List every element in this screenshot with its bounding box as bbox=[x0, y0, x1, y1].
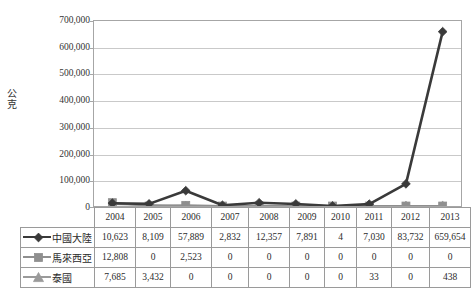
legend-label: 馬來西亞 bbox=[52, 250, 94, 265]
y-tick-label: 200,000 bbox=[28, 149, 90, 159]
table-cell-value: 438 bbox=[430, 267, 471, 287]
table-row: 泰國7,6853,43200000330438 bbox=[21, 267, 471, 287]
series-marker bbox=[402, 202, 410, 206]
column-header-year: 2006 bbox=[171, 208, 212, 228]
table-header-row: 2004 2005 2006 2007 2008 2009 2010 2011 … bbox=[21, 208, 471, 228]
table-corner-cell bbox=[21, 208, 95, 228]
column-header-year: 2013 bbox=[430, 208, 471, 228]
series-marker bbox=[182, 201, 190, 206]
table-cell-value: 0 bbox=[430, 247, 471, 267]
column-header-year: 2009 bbox=[290, 208, 325, 228]
y-tick-label: 600,000 bbox=[28, 42, 90, 52]
y-tick-label: 300,000 bbox=[28, 122, 90, 132]
column-header-year: 2012 bbox=[392, 208, 430, 228]
y-axis-title: 公克 bbox=[4, 88, 20, 110]
legend-entry-3: 泰國 bbox=[21, 267, 95, 287]
table-cell-value: 0 bbox=[171, 267, 212, 287]
table-cell-value: 0 bbox=[357, 247, 392, 267]
table-cell-value: 0 bbox=[249, 247, 290, 267]
table-cell-value: 659,654 bbox=[430, 227, 471, 247]
table-cell-value: 4 bbox=[325, 227, 357, 247]
table-cell-value: 0 bbox=[392, 267, 430, 287]
series-marker bbox=[439, 202, 447, 206]
table-cell-value: 57,889 bbox=[171, 227, 212, 247]
table-cell-value: 2,523 bbox=[171, 247, 212, 267]
table-cell-value: 0 bbox=[290, 247, 325, 267]
legend-label: 泰國 bbox=[52, 270, 94, 285]
column-header-year: 2010 bbox=[325, 208, 357, 228]
series-marker bbox=[291, 200, 300, 206]
series-line bbox=[112, 32, 442, 206]
table-cell-value: 0 bbox=[290, 267, 325, 287]
table-cell-value: 33 bbox=[357, 267, 392, 287]
legend-entry-2: 馬來西亞 bbox=[21, 247, 95, 267]
y-tick-label: 500,000 bbox=[28, 68, 90, 78]
column-header-year: 2007 bbox=[212, 208, 249, 228]
y-tick-label: 700,000 bbox=[28, 15, 90, 25]
table-cell-value: 7,685 bbox=[95, 267, 136, 287]
table-cell-value: 2,832 bbox=[212, 227, 249, 247]
table-row: 馬來西亞12,80802,5230000000 bbox=[21, 247, 471, 267]
table-row: 中國大陸10,6238,10957,8892,83212,3577,89147,… bbox=[21, 227, 471, 247]
column-header-year: 2011 bbox=[357, 208, 392, 228]
legend-entry-1: 中國大陸 bbox=[21, 227, 95, 247]
plot-area bbox=[93, 20, 462, 207]
triangle-marker-icon bbox=[23, 271, 51, 283]
table-cell-value: 0 bbox=[212, 247, 249, 267]
series-marker bbox=[145, 200, 154, 206]
legend-label: 中國大陸 bbox=[52, 230, 94, 245]
series-marker bbox=[438, 27, 447, 36]
table-cell-value: 0 bbox=[136, 247, 171, 267]
square-marker-icon bbox=[23, 251, 51, 263]
diamond-marker-icon bbox=[23, 231, 51, 243]
table-cell-value: 8,109 bbox=[136, 227, 171, 247]
table-cell-value: 10,623 bbox=[95, 227, 136, 247]
table-cell-value: 83,732 bbox=[392, 227, 430, 247]
table-cell-value: 7,030 bbox=[357, 227, 392, 247]
series-marker bbox=[365, 200, 374, 206]
series-marker bbox=[181, 186, 190, 195]
table-cell-value: 0 bbox=[392, 247, 430, 267]
chart-container: 公克 700,000 600,000 500,000 400,000 300,0… bbox=[0, 0, 472, 290]
column-header-year: 2008 bbox=[249, 208, 290, 228]
table-cell-value: 0 bbox=[325, 247, 357, 267]
table-cell-value: 12,357 bbox=[249, 227, 290, 247]
column-header-year: 2005 bbox=[136, 208, 171, 228]
table-cell-value: 3,432 bbox=[136, 267, 171, 287]
table-cell-value: 7,891 bbox=[290, 227, 325, 247]
column-header-year: 2004 bbox=[95, 208, 136, 228]
y-tick-label: 100,000 bbox=[28, 175, 90, 185]
table-cell-value: 0 bbox=[325, 267, 357, 287]
y-tick-label: 400,000 bbox=[28, 95, 90, 105]
table-cell-value: 0 bbox=[212, 267, 249, 287]
series-layer bbox=[94, 21, 461, 206]
table-cell-value: 0 bbox=[249, 267, 290, 287]
data-table: 2004 2005 2006 2007 2008 2009 2010 2011 … bbox=[20, 207, 471, 288]
table-cell-value: 12,808 bbox=[95, 247, 136, 267]
